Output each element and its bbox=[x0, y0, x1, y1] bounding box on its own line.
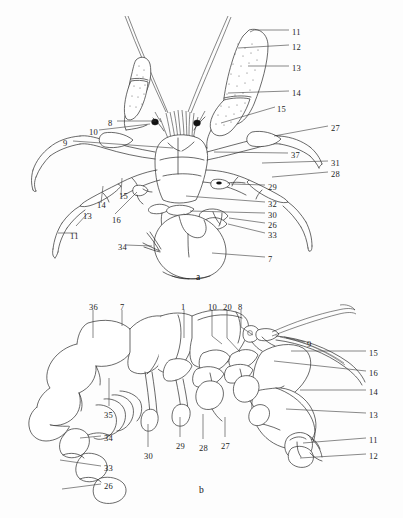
callout-label-a-26-12: 26 bbox=[268, 221, 277, 230]
line-art-illustration bbox=[0, 0, 403, 518]
callout-label-a-8-15: 8 bbox=[108, 119, 112, 128]
callout-label-a-14-3: 14 bbox=[292, 89, 301, 98]
callout-label-a-29-9: 29 bbox=[268, 183, 277, 192]
callout-label-a-33-13: 33 bbox=[268, 231, 277, 240]
callout-label-a-10-16: 10 bbox=[89, 128, 98, 137]
callout-label-a-16-21: 16 bbox=[112, 216, 121, 225]
callout-label-a-30-11: 30 bbox=[268, 211, 277, 220]
callout-label-b-14-9: 14 bbox=[369, 388, 378, 397]
callout-label-a-27-5: 27 bbox=[331, 124, 340, 133]
callout-label-b-29-18: 29 bbox=[176, 442, 185, 451]
callout-label-b-33-15: 33 bbox=[104, 464, 113, 473]
callout-label-b-28-19: 28 bbox=[199, 444, 208, 453]
callout-label-b-8-5: 8 bbox=[238, 303, 242, 312]
callout-label-b-16-8: 16 bbox=[369, 369, 378, 378]
callout-label-b-27-20: 27 bbox=[221, 442, 230, 451]
callout-label-b-35-13: 35 bbox=[104, 411, 113, 420]
callout-label-b-7-1: 7 bbox=[120, 303, 124, 312]
callout-label-a-32-10: 32 bbox=[268, 200, 277, 209]
callout-label-b-11-11: 11 bbox=[369, 436, 378, 445]
callout-label-b-1-2: 1 bbox=[181, 303, 185, 312]
callout-label-b-15-7: 15 bbox=[369, 349, 378, 358]
callout-label-a-31-7: 31 bbox=[331, 159, 340, 168]
callout-label-b-34-14: 34 bbox=[104, 434, 113, 443]
callout-label-a-7-14: 7 bbox=[268, 255, 272, 264]
callout-label-a-12-1: 12 bbox=[292, 43, 301, 52]
callout-label-a-11-0: 11 bbox=[292, 28, 301, 37]
callout-label-a-15-18: 15 bbox=[119, 192, 128, 201]
callout-label-a-37-6: 37 bbox=[291, 151, 300, 160]
callout-label-a-28-8: 28 bbox=[331, 170, 340, 179]
callout-label-a-9-17: 9 bbox=[63, 139, 67, 148]
callout-label-b-10-3: 10 bbox=[208, 303, 217, 312]
callout-label-a-34-23: 34 bbox=[118, 243, 127, 252]
callout-label-b-9-6: 9 bbox=[307, 340, 311, 349]
figure-b-caption: b bbox=[199, 485, 204, 495]
callout-label-b-36-0: 36 bbox=[89, 303, 98, 312]
callout-label-b-13-10: 13 bbox=[369, 411, 378, 420]
callout-label-b-30-17: 30 bbox=[144, 452, 153, 461]
callout-label-b-20-4: 20 bbox=[223, 303, 232, 312]
figure-a-caption: a bbox=[196, 272, 201, 282]
callout-label-a-11-22: 11 bbox=[70, 232, 79, 241]
callout-label-a-13-2: 13 bbox=[292, 64, 301, 73]
figure-b-artwork bbox=[29, 305, 366, 504]
callout-label-b-26-16: 26 bbox=[104, 482, 113, 491]
callout-label-a-14-19: 14 bbox=[97, 201, 106, 210]
callout-label-b-12-12: 12 bbox=[369, 452, 378, 461]
callout-label-a-13-20: 13 bbox=[83, 212, 92, 221]
callout-label-a-15-4: 15 bbox=[277, 105, 286, 114]
anatomy-plate: 1112131415273731282932302633781091514131… bbox=[0, 0, 403, 518]
